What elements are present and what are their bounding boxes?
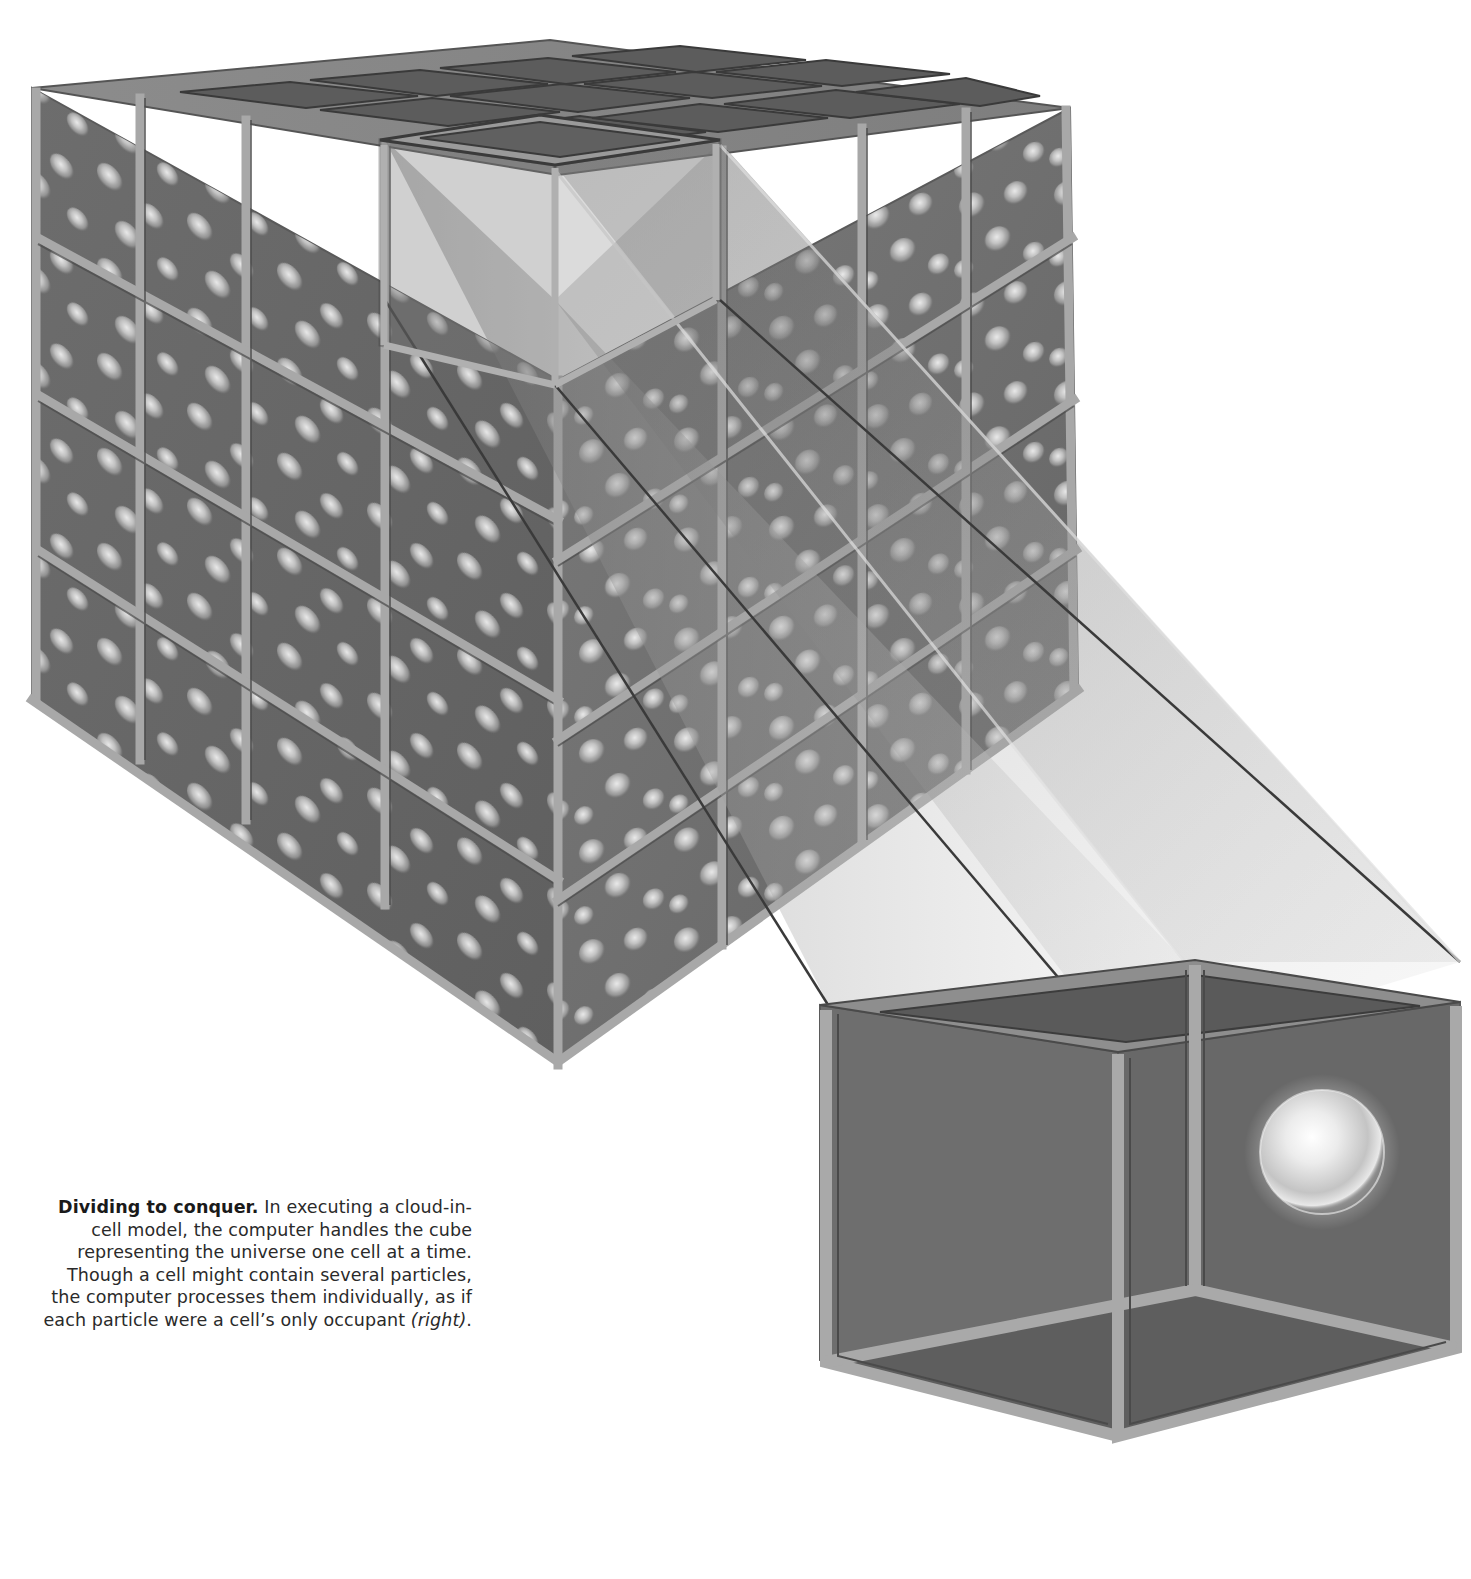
cloud-in-cell-illustration: [0, 0, 1471, 1579]
enlarged-cell: [820, 960, 1460, 1440]
figure-caption: Dividing to conquer. In executing a clou…: [40, 1196, 472, 1331]
caption-reference: (right): [411, 1310, 466, 1330]
caption-title: Dividing to conquer.: [58, 1197, 259, 1217]
caption-end: .: [466, 1310, 472, 1330]
